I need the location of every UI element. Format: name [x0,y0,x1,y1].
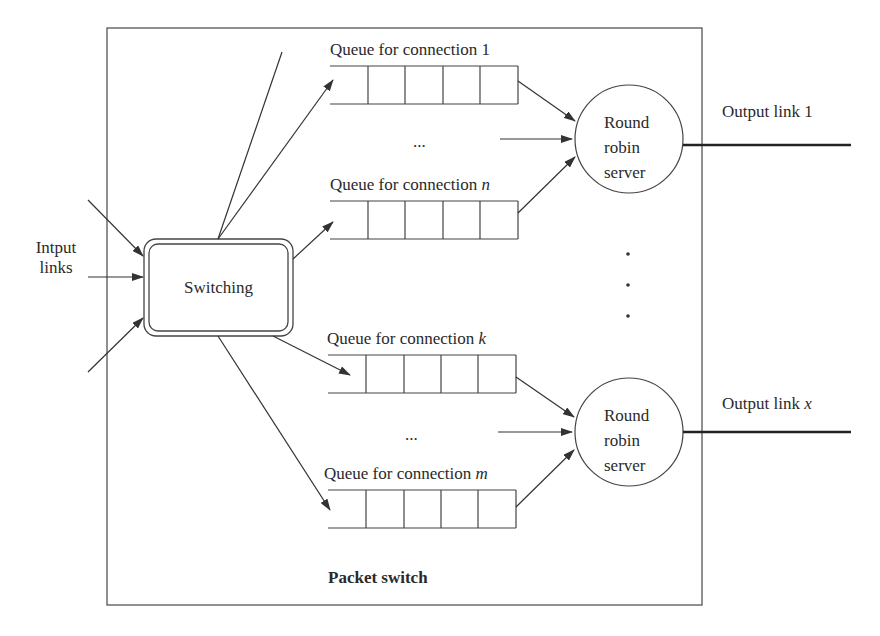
queue-id: m [476,464,488,483]
horizontal-ellipsis-top: ... [413,132,426,152]
queue-id: 1 [482,40,491,59]
diagram-canvas [0,0,880,636]
input-links-label-line2: links [24,258,88,278]
queue-label-prefix: Queue for connection [330,40,482,59]
output-link-id: x [804,394,812,413]
server-label-line1: Round [604,403,649,428]
output-link-prefix: Output link [722,102,804,121]
output-link-id: 1 [804,102,813,121]
input-arrows [88,200,143,372]
server-label-line1: Round [604,110,649,135]
output-link-1-label: Output link 1 [722,102,813,122]
queue-label-prefix: Queue for connection [324,464,476,483]
queue-k-label: Queue for connection k [327,329,486,349]
queue-id: k [479,329,487,348]
input-links-label: Intput links [24,238,88,278]
queue-to-server-arrows [498,81,575,507]
output-link-prefix: Output link [722,394,804,413]
server-1-label: Round robin server [604,110,649,185]
packet-switch-label: Packet switch [328,568,428,588]
horizontal-ellipsis-bottom: ... [405,425,418,445]
queue-k [328,355,516,393]
queue-1 [330,66,518,104]
queue-label-prefix: Queue for connection [327,329,479,348]
queue-id: n [482,175,491,194]
switching-label: Switching [144,278,293,298]
output-link-x-label: Output link x [722,394,812,414]
server-label-line3: server [604,160,649,185]
queue-label-prefix: Queue for connection [330,175,482,194]
server-label-line2: robin [604,135,649,160]
server-label-line2: robin [604,428,649,453]
queue-n-label: Queue for connection n [330,175,490,195]
queue-m [328,490,516,528]
server-label-line3: server [604,453,649,478]
queue-n [330,201,518,239]
queue-m-label: Queue for connection m [324,464,488,484]
input-links-label-line1: Intput [24,238,88,258]
vertical-ellipsis [626,252,630,318]
server-x-label: Round robin server [604,403,649,478]
queue-1-label: Queue for connection 1 [330,40,490,60]
